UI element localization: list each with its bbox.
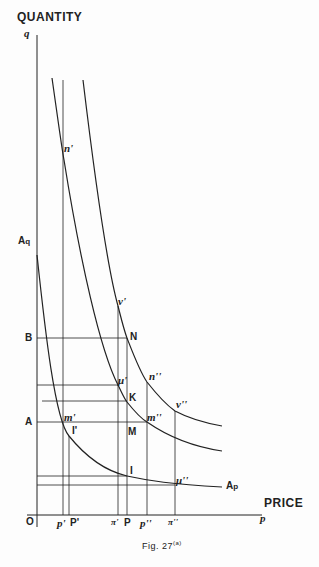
point-I1: I' bbox=[72, 426, 77, 436]
point-nu2: ν'' bbox=[176, 399, 187, 410]
point-mu2: μ'' bbox=[176, 475, 188, 486]
point-m1: m' bbox=[64, 412, 76, 423]
figure-caption: Fig. 27(a) bbox=[142, 540, 182, 551]
point-M: M bbox=[128, 427, 136, 437]
point-K: K bbox=[129, 393, 136, 403]
point-I: I bbox=[130, 466, 133, 476]
point-N: N bbox=[130, 332, 137, 342]
point-m2: m'' bbox=[147, 412, 162, 423]
label-Ap: Ap bbox=[226, 481, 238, 491]
x-axis-title: PRICE bbox=[264, 497, 303, 509]
diagram-svg bbox=[0, 0, 319, 567]
figure-canvas: QUANTITY q PRICE p O Aq Ap B A p' P' π' … bbox=[0, 0, 319, 567]
y-label-A: A bbox=[25, 417, 32, 427]
point-n2: n'' bbox=[149, 371, 161, 382]
label-Aq: Aq bbox=[18, 236, 30, 246]
x-axis-symbol: p bbox=[260, 513, 266, 524]
x-label-P: P bbox=[124, 518, 131, 528]
point-mu1: μ' bbox=[118, 375, 127, 386]
curve-middle bbox=[52, 78, 222, 451]
y-axis-symbol: q bbox=[24, 28, 30, 39]
x-label-p2: p'' bbox=[140, 518, 152, 529]
y-label-B: B bbox=[25, 333, 32, 343]
x-label-pi2: π'' bbox=[168, 518, 178, 527]
y-axis-title: QUANTITY bbox=[17, 11, 82, 23]
point-nu1: ν' bbox=[118, 296, 126, 307]
curve-Aq-Ap bbox=[37, 255, 222, 487]
origin-label: O bbox=[26, 517, 34, 527]
x-label-pi1: π' bbox=[111, 518, 118, 527]
point-n1: n' bbox=[64, 143, 73, 154]
x-label-P1: P' bbox=[70, 518, 79, 528]
x-label-p1: p' bbox=[57, 518, 66, 529]
